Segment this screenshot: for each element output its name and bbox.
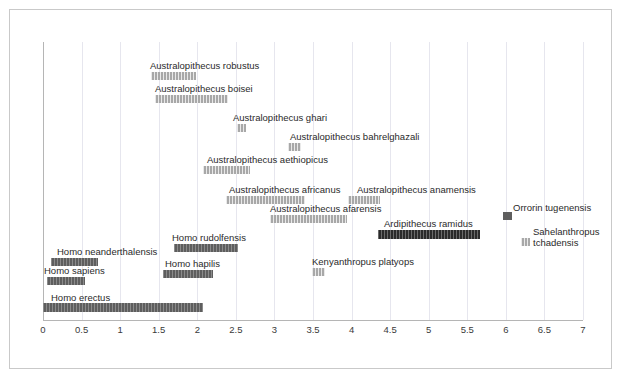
bar-label-robustus: Australopithecus robustus (150, 60, 259, 71)
bar-hapilis (163, 270, 213, 278)
gridline-3 (274, 42, 275, 320)
x-axis-line (43, 320, 583, 321)
xtick-4: 4 (337, 324, 367, 336)
bar-label-erectus: Homo erectus (51, 292, 110, 303)
gridline-1 (120, 42, 121, 320)
bar-aethiopicus (203, 166, 249, 174)
bar-afarensis (270, 215, 347, 223)
bar-label-orrorin: Orrorin tugenensis (513, 202, 591, 213)
bar-label-sahelanthropus: Sahelanthropus tchadensis (533, 226, 613, 248)
bar-label-anamensis: Australopithecus anamensis (357, 184, 476, 195)
bar-label-boisei: Australopithecus boisei (155, 83, 253, 94)
xtick-3: 3 (259, 324, 289, 336)
bar-bahrelghazali (288, 143, 301, 151)
sahelanthropus-label-line2: tchadensis (533, 237, 578, 248)
xtick-6: 6 (491, 324, 521, 336)
sahelanthropus-label-line1: Sahelanthropus (533, 226, 600, 237)
y-axis-line (43, 42, 44, 321)
bar-label-bahrelghazali: Australopithecus bahrelghazali (290, 131, 419, 142)
gridline-6 (506, 42, 507, 320)
bar-label-ghari: Australopithecus ghari (233, 112, 327, 123)
xtick-3.5: 3.5 (298, 324, 328, 336)
gridline-3.5 (313, 42, 314, 320)
bar-sahelanthropus (521, 238, 530, 246)
xtick-5.5: 5.5 (452, 324, 482, 336)
xtick-4.5: 4.5 (375, 324, 405, 336)
bar-rudolfensis (174, 244, 238, 252)
bar-label-afarensis: Australopithecus afarensis (270, 203, 381, 214)
bar-robustus (151, 72, 196, 80)
bar-label-hapilis: Homo hapilis (165, 258, 220, 269)
xtick-2.5: 2.5 (221, 324, 251, 336)
gridline-6.5 (544, 42, 545, 320)
chart-plot-area: Australopithecus robustus Australopithec… (0, 0, 621, 378)
bar-label-ramidus: Ardipithecus ramidus (384, 218, 473, 229)
bar-orrorin (503, 212, 512, 220)
xtick-7: 7 (568, 324, 598, 336)
bar-erectus (43, 303, 203, 312)
xtick-1: 1 (105, 324, 135, 336)
bar-ghari (237, 124, 246, 132)
bar-label-kenyanthropus: Kenyanthropus platyops (312, 256, 414, 267)
gridline-5 (429, 42, 430, 320)
xtick-2: 2 (182, 324, 212, 336)
bar-label-africanus: Australopithecus africanus (229, 184, 340, 195)
xtick-0.5: 0.5 (67, 324, 97, 336)
xtick-6.5: 6.5 (529, 324, 559, 336)
bar-sapiens (47, 277, 86, 285)
xtick-1.5: 1.5 (144, 324, 174, 336)
gridline-7 (583, 42, 584, 320)
bar-label-sapiens: Homo sapiens (44, 265, 105, 276)
bar-label-rudolfensis: Homo rudolfensis (172, 232, 246, 243)
xtick-5: 5 (414, 324, 444, 336)
bar-ramidus (378, 230, 481, 239)
gridline-4.5 (390, 42, 391, 320)
chart-page: Australopithecus robustus Australopithec… (0, 0, 621, 378)
bar-kenyanthropus (312, 268, 325, 276)
bar-label-neanderthalensis: Homo neanderthalensis (57, 246, 157, 257)
bar-boisei (155, 95, 228, 103)
bar-label-aethiopicus: Australopithecus aethiopicus (207, 154, 328, 165)
gridline-4 (352, 42, 353, 320)
gridline-5.5 (467, 42, 468, 320)
xtick-0: 0 (28, 324, 58, 336)
